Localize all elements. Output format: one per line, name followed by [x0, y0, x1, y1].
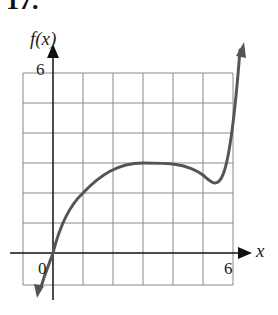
x-axis-label: x — [256, 240, 264, 262]
x-tick-6: 6 — [224, 259, 233, 279]
curve-end-arrow-icon — [236, 42, 246, 58]
x-tick-0: 0 — [38, 259, 47, 279]
function-curve — [40, 50, 240, 290]
y-axis-label: f(x) — [30, 28, 56, 50]
curve-start-arrow-icon — [34, 284, 44, 298]
x-axis-arrow-icon — [238, 247, 252, 259]
y-tick-6: 6 — [36, 60, 45, 80]
